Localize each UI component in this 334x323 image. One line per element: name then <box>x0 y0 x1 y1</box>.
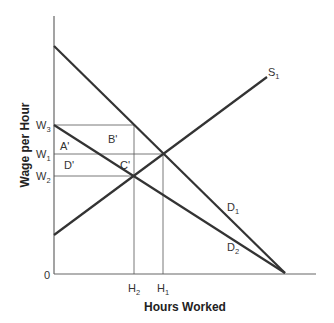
region-b: B' <box>108 133 117 145</box>
region-a: A' <box>60 140 69 152</box>
y-tick-w1: W1 <box>36 148 51 163</box>
label-d1: D1 <box>227 201 239 216</box>
labor-market-diagram: W3 W1 W2 0 H2 H1 S1 D1 D2 A' B' C' D' Ho… <box>0 0 334 323</box>
x-tick-h2: H2 <box>128 282 140 297</box>
region-d: D' <box>64 159 74 171</box>
demand-curve-d2 <box>54 125 285 273</box>
x-tick-h1: H1 <box>157 282 169 297</box>
y-tick-w2: W2 <box>36 170 51 185</box>
origin-label: 0 <box>44 269 50 281</box>
y-tick-w3: W3 <box>36 119 51 134</box>
demand-curve-d1 <box>54 46 285 273</box>
y-axis-title: Wage per Hour <box>18 102 32 187</box>
label-s1: S1 <box>268 66 280 81</box>
region-c: C' <box>120 159 130 171</box>
x-axis-title: Hours Worked <box>144 300 226 314</box>
